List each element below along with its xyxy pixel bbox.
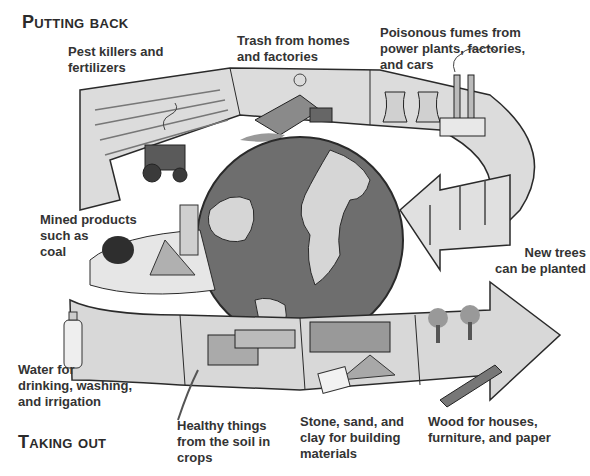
water-bottle-icon [64, 312, 82, 368]
label-trash: Trash from homes and factories [237, 33, 350, 65]
label-wood: Wood for houses, furniture, and paper [428, 414, 551, 446]
label-crops: Healthy things from the soil in crops [177, 418, 270, 466]
label-water: Water for drinking, washing, and irrigat… [18, 362, 132, 410]
putting-back-title: Putting back [22, 12, 129, 33]
new-trees-arrow [400, 175, 510, 270]
globe-icon [197, 137, 403, 345]
label-stone-sand-clay: Stone, sand, and clay for building mater… [300, 414, 404, 462]
label-new-trees: New trees can be planted [495, 245, 586, 277]
label-pest-killers: Pest killers and fertilizers [68, 44, 163, 76]
label-poisonous-fumes: Poisonous fumes from power plants, facto… [380, 25, 525, 73]
label-mined-products: Mined products such as coal [40, 212, 137, 260]
taking-out-title: Taking out [18, 432, 106, 453]
